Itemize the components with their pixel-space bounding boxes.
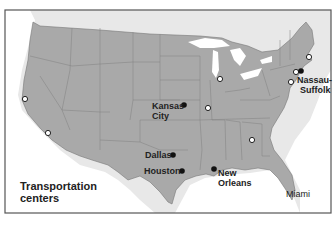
label-kansas-city: Kansas City (152, 101, 184, 121)
open-marker-chicago (217, 76, 222, 81)
open-marker-st-louis (205, 105, 210, 110)
filled-marker-nassau-suffolk (298, 68, 304, 74)
label-new-orleans: New Orleans (218, 168, 252, 188)
label-houston: Houston (144, 166, 181, 176)
open-marker-boston (306, 54, 311, 59)
open-marker-philadelphia (288, 79, 293, 84)
label-dallas: Dallas (145, 150, 172, 160)
filled-marker-new-orleans (211, 166, 217, 172)
open-marker-atlanta (249, 137, 254, 142)
open-marker-los-angeles (45, 130, 50, 135)
label-miami: Miami (286, 189, 310, 199)
label-nassau-suffolk: Nassau- Suffolk (297, 75, 332, 95)
open-marker-san-francisco (22, 96, 27, 101)
map-legend-title: Transportation centers (20, 180, 97, 204)
open-marker-new-york (293, 69, 298, 74)
